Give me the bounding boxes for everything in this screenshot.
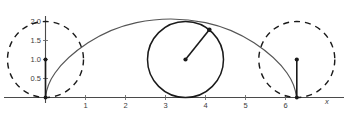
radius-line-middle [186,30,210,60]
x-tick-label-2: 3 [163,101,167,110]
x-tick-label-3: 4 [203,101,207,110]
center-point-middle [183,57,187,61]
x-axis-label: x [324,97,329,106]
x-tick-label-5: 6 [283,101,287,110]
y-tick-label-0: 0.5 [31,74,41,83]
y-tick-label-3: 2.0 [31,17,41,26]
axis-group [4,16,344,103]
tracing-point-middle [207,28,212,33]
y-tick-label-2: 1.5 [31,36,41,45]
origin-point [44,96,48,100]
x-tick-label-1: 2 [123,101,127,110]
contact-point-end [295,96,299,100]
center-point-start [44,58,48,62]
cycloid-figure: 0.5 1.0 1.5 2.0 1 2 3 4 5 6 x [0,0,352,118]
y-tick-labels: 0.5 1.0 1.5 2.0 [31,17,41,83]
cycloid-curve [46,19,297,98]
cycloid-plot: 0.5 1.0 1.5 2.0 1 2 3 4 5 6 x [0,0,352,118]
center-point-end [295,57,299,61]
x-tick-label-4: 5 [243,101,247,110]
x-tick-labels: 1 2 3 4 5 6 [83,101,287,110]
y-tick-label-1: 1.0 [31,55,41,64]
x-tick-label-0: 1 [83,101,87,110]
